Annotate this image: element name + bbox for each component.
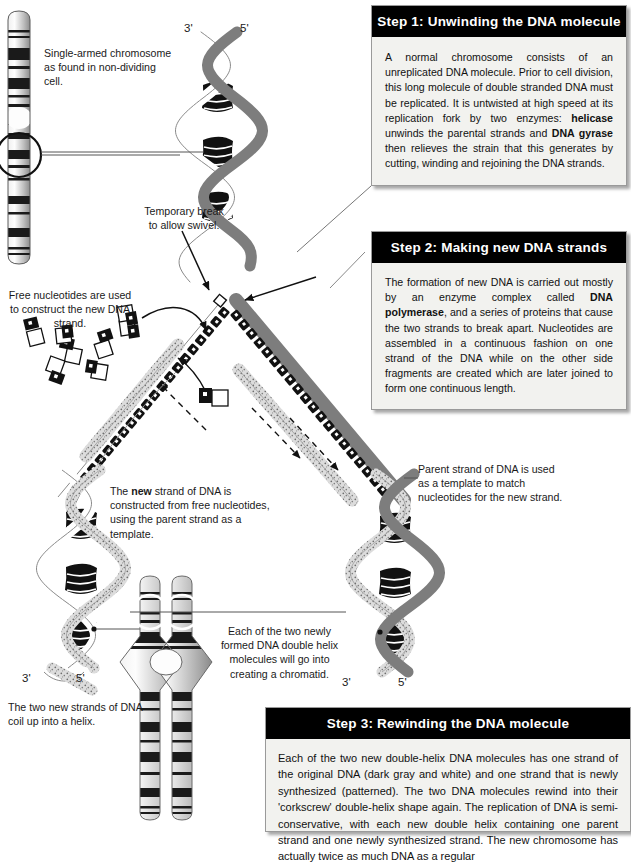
nucleotide-path-arrow-2 bbox=[178, 358, 206, 392]
annotation-single-chromosome: Single-armed chromosome as found in non-… bbox=[44, 46, 176, 89]
temporary-break-arrow bbox=[182, 231, 209, 290]
prime-label-top-left: 3' bbox=[184, 22, 193, 34]
prime-label-bottom-right-3: 3' bbox=[342, 676, 351, 688]
replication-fork-right-arm bbox=[160, 300, 404, 500]
centromere bbox=[150, 649, 182, 675]
prime-label-bottom-left-3: 3' bbox=[22, 672, 31, 684]
step-3-header: Step 3: Rewinding the DNA molecule bbox=[266, 708, 630, 739]
nucleotide-teeth-right bbox=[230, 309, 389, 496]
new-strand-left bbox=[86, 345, 178, 456]
free-nucleotides bbox=[23, 305, 228, 512]
helix-ends-bottom-left bbox=[44, 668, 92, 690]
step-1-box: Step 1: Unwinding the DNA molecule A nor… bbox=[371, 5, 627, 186]
step-3-body: Each of the two new double-helix DNA mol… bbox=[266, 739, 630, 865]
prime-label-top-right: 5' bbox=[240, 22, 249, 34]
step-1-body: A normal chromosome consists of an unrep… bbox=[372, 37, 626, 185]
annotation-chromatid: Each of the two newly formed DNA double … bbox=[213, 624, 346, 681]
annotation-temporary-break: Temporary break to allow swivel. bbox=[139, 204, 229, 232]
step-2-box: Step 2: Making new DNA strands The forma… bbox=[371, 231, 627, 410]
annotation-coil-helix: The two new strands of DNA coil up into … bbox=[8, 700, 148, 728]
step1-pointer-arrow bbox=[245, 277, 316, 300]
annotation-free-nucleotides: Free nucleotides are used to construct t… bbox=[8, 288, 132, 331]
nucleotide-path-arrow-1 bbox=[142, 308, 206, 330]
step-2-header: Step 2: Making new DNA strands bbox=[372, 232, 626, 263]
step-3-box: Step 3: Rewinding the DNA molecule Each … bbox=[265, 707, 631, 832]
temporary-break-marker bbox=[182, 231, 226, 307]
nucleotide-teeth-left bbox=[71, 306, 230, 493]
step-1-header: Step 1: Unwinding the DNA molecule bbox=[372, 6, 626, 37]
annotation-new-strand: The new strand of DNA is constructed fro… bbox=[110, 484, 270, 541]
new-strand-right bbox=[239, 370, 352, 500]
prime-label-bottom-left-5: 5' bbox=[76, 672, 85, 684]
step-2-body: The formation of new DNA is carried out … bbox=[372, 263, 626, 409]
annotation-parent-strand: Parent strand of DNA is used as a templa… bbox=[418, 462, 568, 505]
prime-label-bottom-right-5: 5' bbox=[398, 676, 407, 688]
